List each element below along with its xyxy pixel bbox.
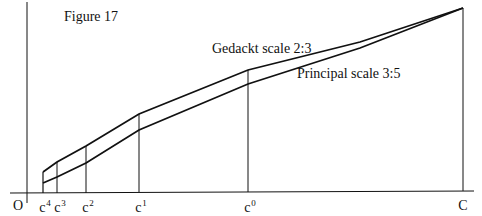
principal-label: Principal scale 3:5	[297, 67, 400, 81]
scale-diagram	[0, 0, 482, 216]
tick-c0-sup: 0	[251, 198, 256, 208]
horizontal-axis	[10, 191, 474, 193]
tick-c3-base: c	[54, 200, 60, 215]
tick-C: C	[458, 199, 467, 213]
origin-label: O	[13, 199, 23, 213]
gedackt-label: Gedackt scale 2:3	[212, 42, 312, 56]
tick-c2-sup: 2	[89, 198, 94, 208]
tick-c2-base: c	[82, 200, 88, 215]
tick-c4-base: c	[39, 200, 45, 215]
tick-c3-sup: 3	[61, 198, 66, 208]
tick-c0-base: c	[244, 200, 250, 215]
tick-c0: c0	[244, 199, 256, 215]
principal-curve	[43, 8, 463, 183]
tick-C-base: C	[458, 198, 467, 213]
tick-c2: c2	[82, 199, 94, 215]
tick-c1: c1	[135, 199, 147, 215]
tick-c3: c3	[54, 199, 66, 215]
tick-c4-sup: 4	[46, 198, 51, 208]
figure-title: Figure 17	[64, 10, 118, 24]
tick-c4: c4	[39, 199, 51, 215]
tick-c1-sup: 1	[142, 198, 147, 208]
tick-c1-base: c	[135, 200, 141, 215]
